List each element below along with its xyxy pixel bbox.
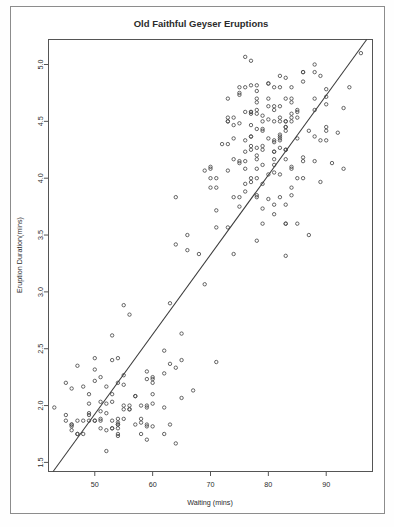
scatter-point <box>76 432 79 435</box>
scatter-point <box>278 74 281 77</box>
scatter-point <box>215 226 218 229</box>
scatter-point <box>255 108 258 111</box>
scatter-point <box>261 222 264 225</box>
scatter-point <box>272 171 275 174</box>
scatter-point <box>93 356 96 359</box>
scatter-point <box>325 129 328 132</box>
scatter-point <box>325 103 328 106</box>
scatter-point <box>215 186 218 189</box>
scatter-point <box>249 148 252 151</box>
scatter-point <box>244 150 247 153</box>
scatter-point <box>301 80 304 83</box>
scatter-point <box>238 195 241 198</box>
regression-trendline <box>53 40 367 472</box>
scatter-point <box>105 411 108 414</box>
scatter-point <box>168 362 171 365</box>
scatter-point <box>168 423 171 426</box>
scatter-point <box>255 167 258 170</box>
scatter-point <box>272 120 275 123</box>
x-tick-label: 80 <box>264 480 272 489</box>
scatter-point <box>267 82 270 85</box>
scatter-point <box>99 410 102 413</box>
scatter-point <box>244 110 247 113</box>
scatter-point <box>336 131 339 134</box>
scatter-point <box>105 449 108 452</box>
scatter-point <box>70 429 73 432</box>
scatter-point <box>249 180 252 183</box>
scatter-point <box>99 375 102 378</box>
scatter-point <box>272 203 275 206</box>
scatter-point <box>220 142 223 145</box>
scatter-point <box>232 252 235 255</box>
scatter-point <box>151 425 154 428</box>
scatter-point <box>244 182 247 185</box>
scatter-point <box>313 97 316 100</box>
scatter-point <box>174 243 177 246</box>
scatter-point <box>284 125 287 128</box>
scatter-point <box>342 167 345 170</box>
scatter-point <box>290 120 293 123</box>
y-tick-label: 3.0 <box>36 287 45 297</box>
scatter-point <box>110 419 113 422</box>
scatter-point <box>284 222 287 225</box>
scatter-point <box>128 313 131 316</box>
scatter-point <box>76 419 79 422</box>
scatter-point <box>174 442 177 445</box>
x-tick-label: 60 <box>149 480 157 489</box>
scatter-point <box>278 120 281 123</box>
x-tick-label: 90 <box>322 480 330 489</box>
scatter-point <box>110 400 113 403</box>
scatter-point <box>301 159 304 162</box>
scatter-point <box>238 122 241 125</box>
scatter-point <box>82 432 85 435</box>
scatter-point <box>284 97 287 100</box>
scatter-point <box>325 125 328 128</box>
page-title: Old Faithful Geyser Eruptions <box>134 18 269 29</box>
scatter-point <box>244 139 247 142</box>
scatter-point <box>139 404 142 407</box>
scatter-point <box>122 404 125 407</box>
scatter-point <box>145 370 148 373</box>
scatter-point <box>232 123 235 126</box>
scatter-point <box>255 112 258 115</box>
scatter-point <box>238 205 241 208</box>
scatter-point <box>272 158 275 161</box>
scatter-point <box>116 427 119 430</box>
scatter-point <box>186 248 189 251</box>
scatter-point <box>105 429 108 432</box>
scatter-point <box>313 70 316 73</box>
scatter-point <box>70 387 73 390</box>
scatter-point <box>238 86 241 89</box>
scatter-point <box>261 144 264 147</box>
scatter-point <box>284 76 287 79</box>
scatter-point <box>76 364 79 367</box>
scatter-point <box>215 209 218 212</box>
scatter-point <box>249 123 252 126</box>
y-tick-label: 1.5 <box>36 457 45 467</box>
scatter-point <box>301 70 304 73</box>
scatter-point <box>122 303 125 306</box>
scatter-point <box>186 233 189 236</box>
scatter-point <box>249 176 252 179</box>
scatter-point <box>110 358 113 361</box>
y-axis-title: Eruption Duration(mins) <box>15 217 24 293</box>
scatter-point <box>272 150 275 153</box>
scatter-point <box>267 97 270 100</box>
scatter-point <box>163 349 166 352</box>
scatter-point <box>255 146 258 149</box>
scatter-point <box>307 233 310 236</box>
scatter-point <box>290 97 293 100</box>
scatter-point <box>116 356 119 359</box>
scatter-point <box>278 173 281 176</box>
scatter-point <box>151 392 154 395</box>
y-tick-label: 2.0 <box>36 401 45 411</box>
scatter-point <box>272 213 275 216</box>
scatter-point <box>209 186 212 189</box>
x-tick-label: 50 <box>91 480 99 489</box>
y-tick-label: 4.0 <box>36 173 45 183</box>
scatter-point <box>180 396 183 399</box>
x-axis-title: Waiting (mins) <box>187 498 233 507</box>
scatter-point <box>226 97 229 100</box>
scatter-point <box>145 438 148 441</box>
scatter-point <box>128 408 131 411</box>
